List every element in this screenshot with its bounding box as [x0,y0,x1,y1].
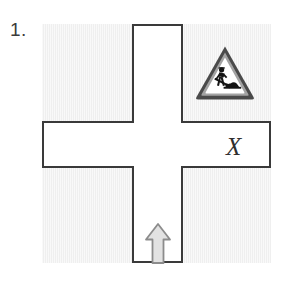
block-top-left [42,24,134,123]
x-marking: X [226,134,241,159]
direction-arrow-up-icon [143,222,173,264]
roadworks-warning-sign-icon [194,44,256,102]
intersection-diagram: 1. [0,0,285,287]
block-bottom-left [42,166,134,263]
block-bottom-right [181,166,271,263]
figure-number-label: 1. [10,20,27,39]
